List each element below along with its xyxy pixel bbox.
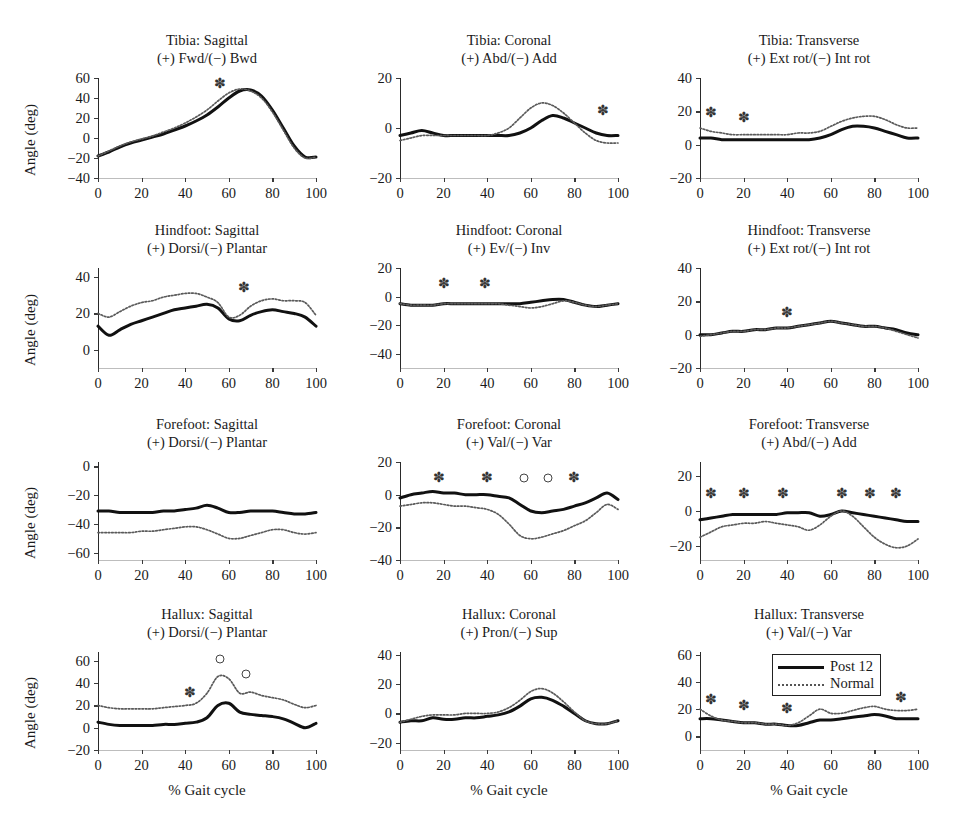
panel-hallux-transverse: Hallux: Transverse (+) Val/(−) Var020406…	[0, 0, 953, 826]
series-normal-hallux-transverse	[700, 706, 918, 725]
legend-label-0: Post 12	[830, 658, 873, 675]
curves-hallux-transverse	[0, 0, 953, 826]
x-tick-label-hallux-transverse-3: 60	[824, 757, 839, 774]
significance-asterisk-hallux-transverse-1: ✽	[738, 699, 750, 713]
x-tick-hallux-transverse-3	[831, 750, 832, 754]
y-tick-label-hallux-transverse-2: 40	[634, 673, 692, 690]
x-tick-hallux-transverse-5	[918, 750, 919, 754]
x-tick-label-hallux-transverse-1: 20	[736, 757, 751, 774]
panel-title-hallux-transverse: Hallux: Transverse (+) Val/(−) Var	[640, 606, 953, 641]
y-tick-hallux-transverse-3	[696, 655, 700, 656]
gait-kinematics-figure: Tibia: Sagittal (+) Fwd/(−) Bwd−40−20020…	[0, 0, 953, 826]
x-tick-hallux-transverse-1	[744, 750, 745, 754]
legend-swatch-solid	[778, 661, 824, 673]
x-tick-label-hallux-transverse-2: 40	[780, 757, 795, 774]
x-tick-label-hallux-transverse-0: 0	[696, 757, 703, 774]
y-tick-hallux-transverse-0	[696, 736, 700, 737]
legend-entry-post-12: Post 12	[778, 658, 874, 675]
x-axis-hallux-transverse	[700, 750, 918, 751]
x-tick-hallux-transverse-4	[874, 750, 875, 754]
significance-asterisk-hallux-transverse-3: ✽	[895, 691, 907, 705]
x-tick-label-hallux-transverse-5: 100	[907, 757, 929, 774]
y-tick-hallux-transverse-1	[696, 709, 700, 710]
x-tick-label-hallux-transverse-4: 80	[867, 757, 882, 774]
significance-asterisk-hallux-transverse-2: ✽	[781, 702, 793, 716]
y-tick-label-hallux-transverse-1: 20	[634, 701, 692, 718]
y-axis-hallux-transverse	[700, 652, 701, 750]
y-tick-label-hallux-transverse-0: 0	[634, 728, 692, 745]
chart-legend: Post 12Normal	[772, 654, 881, 696]
y-tick-label-hallux-transverse-3: 60	[634, 646, 692, 663]
y-tick-hallux-transverse-2	[696, 682, 700, 683]
significance-asterisk-hallux-transverse-0: ✽	[705, 693, 717, 707]
legend-swatch-dotted	[778, 678, 824, 690]
legend-entry-normal: Normal	[778, 675, 874, 692]
x-axis-label-hallux-transverse: % Gait cycle	[770, 782, 847, 799]
x-tick-hallux-transverse-2	[787, 750, 788, 754]
legend-label-1: Normal	[830, 675, 874, 692]
series-post-12-hallux-transverse	[700, 715, 918, 726]
x-tick-hallux-transverse-0	[700, 750, 701, 754]
